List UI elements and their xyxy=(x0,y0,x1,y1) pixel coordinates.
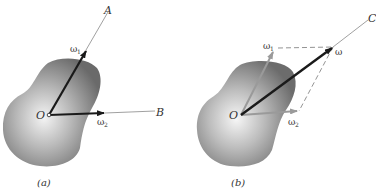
parallelogram-right xyxy=(299,47,333,111)
omega2-label: ω 2 xyxy=(288,117,299,128)
axis-label-a: A xyxy=(103,4,112,17)
caption-a: (a) xyxy=(37,177,51,188)
angular-velocity-diagram: A B O ω 1 ω 2 (a) C O ω ω 1 xyxy=(0,0,376,190)
axis-line-b xyxy=(105,111,155,113)
omega-resultant-label: ω xyxy=(335,47,342,57)
axis-label-c: C xyxy=(368,12,376,25)
origin-point xyxy=(47,113,51,117)
axis-label-b: B xyxy=(155,106,164,119)
svg-text:2: 2 xyxy=(104,121,108,128)
panel-b: C O ω ω 1 ω 2 (b) xyxy=(197,12,376,188)
caption-b: (b) xyxy=(231,177,245,188)
axis-line-a xyxy=(86,12,108,50)
panel-a: A B O ω 1 ω 2 (a) xyxy=(3,4,164,188)
parallelogram-top xyxy=(278,47,333,48)
omega1-label: ω 1 xyxy=(263,41,274,52)
origin-label: O xyxy=(229,109,238,122)
svg-text:1: 1 xyxy=(77,48,81,55)
svg-text:2: 2 xyxy=(295,121,299,128)
omega2-label: ω 2 xyxy=(97,117,108,128)
svg-text:1: 1 xyxy=(270,45,274,52)
omega1-label: ω 1 xyxy=(70,44,81,55)
origin-label: O xyxy=(36,109,45,122)
axis-line-c xyxy=(333,20,368,47)
